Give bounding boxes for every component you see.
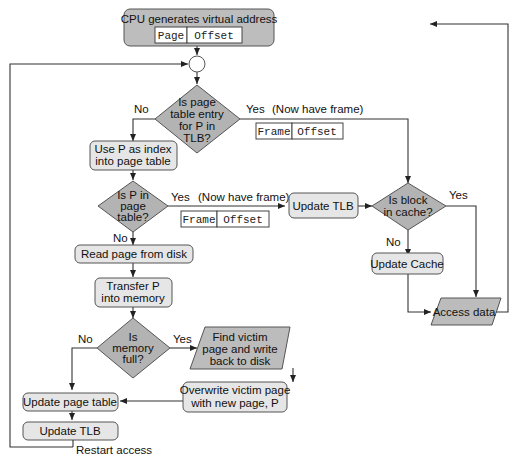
svg-text:Update Cache: Update Cache [370, 258, 444, 270]
svg-text:table?: table? [117, 211, 148, 223]
svg-text:Find victim: Find victim [213, 331, 268, 343]
page-field: Page [158, 30, 184, 42]
svg-text:Access data: Access data [433, 306, 496, 318]
svg-text:Use P as index: Use P as index [94, 143, 171, 155]
svg-text:Frame: Frame [182, 214, 215, 226]
svg-text:full?: full? [122, 353, 143, 365]
tlb-no-label: No [134, 103, 149, 115]
svg-text:page and write: page and write [202, 343, 277, 355]
svg-text:in cache?: in cache? [383, 206, 432, 218]
process-update-page-table: Update page table [23, 393, 118, 411]
svg-text:No: No [78, 333, 93, 345]
svg-text:Is page: Is page [178, 96, 216, 108]
restart-access-label: Restart access [76, 444, 152, 456]
svg-text:Yes: Yes [173, 333, 192, 345]
svg-text:TLB?: TLB? [183, 132, 211, 144]
svg-text:Transfer P: Transfer P [106, 280, 160, 292]
svg-text:Offset: Offset [297, 126, 337, 138]
io-find-victim-page: Find victim page and write back to disk [190, 327, 290, 369]
svg-text:Offset: Offset [223, 214, 263, 226]
start-node-cpu-generates-address: CPU generates virtual address Page Offse… [121, 9, 278, 46]
svg-text:Is block: Is block [389, 194, 428, 206]
decision-p-in-page-table: Is P in page table? Yes (Now have frame)… [98, 181, 290, 244]
paging-flowchart: CPU generates virtual address Page Offse… [0, 0, 520, 465]
process-use-p-as-index: Use P as index into page table [90, 141, 177, 170]
process-update-tlb: Update TLB [289, 193, 358, 218]
tlb-yes-label: Yes [246, 103, 265, 115]
svg-text:(Now have frame): (Now have frame) [198, 191, 290, 203]
svg-text:No: No [113, 232, 128, 244]
svg-text:back to disk: back to disk [210, 355, 271, 367]
merge-connector [189, 56, 205, 72]
svg-text:Update page table: Update page table [23, 396, 117, 408]
offset-field: Offset [194, 30, 234, 42]
svg-text:Yes: Yes [449, 189, 468, 201]
svg-text:for P in: for P in [179, 120, 215, 132]
svg-text:Update TLB: Update TLB [39, 425, 100, 437]
svg-text:Overwrite victim page: Overwrite victim page [180, 384, 291, 396]
process-transfer-p-into-memory: Transfer P into memory [95, 278, 172, 307]
svg-text:Frame: Frame [257, 126, 290, 138]
svg-text:Read page from disk: Read page from disk [81, 248, 187, 260]
process-update-tlb-final: Update TLB [23, 422, 118, 440]
process-update-cache: Update Cache [370, 253, 444, 274]
svg-text:Update TLB: Update TLB [292, 200, 353, 212]
svg-text:Yes: Yes [171, 191, 190, 203]
process-read-page-from-disk: Read page from disk [75, 245, 193, 263]
svg-text:with new page, P: with new page, P [190, 397, 279, 409]
svg-text:No: No [386, 236, 401, 248]
process-overwrite-victim-page: Overwrite victim page with new page, P [180, 382, 291, 412]
svg-text:into page table: into page table [95, 155, 170, 167]
decision-block-in-cache: Is block in cache? Yes No [372, 183, 468, 248]
start-label: CPU generates virtual address [121, 13, 278, 25]
svg-text:table entry: table entry [170, 108, 224, 120]
tlb-note: (Now have frame) [272, 103, 364, 115]
io-access-data: Access data [431, 298, 501, 325]
svg-text:into memory: into memory [101, 292, 165, 304]
